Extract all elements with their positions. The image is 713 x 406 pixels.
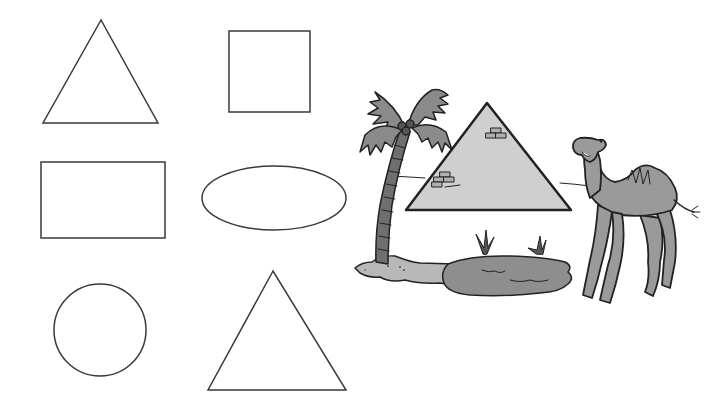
oasis-water[interactable]: [443, 256, 572, 296]
desert-scene: [355, 90, 700, 303]
triangle-shape-bottom[interactable]: [208, 271, 346, 390]
shapes-group: [41, 20, 346, 390]
square-shape[interactable]: [229, 31, 310, 112]
worksheet-canvas: [0, 0, 713, 406]
ellipse-shape[interactable]: [202, 166, 346, 230]
grass-tufts: [476, 230, 546, 254]
circle-shape[interactable]: [54, 284, 146, 376]
camel[interactable]: [573, 138, 700, 303]
rectangle-shape[interactable]: [41, 162, 165, 238]
triangle-shape-top[interactable]: [43, 20, 158, 123]
worksheet-svg: [0, 0, 713, 406]
